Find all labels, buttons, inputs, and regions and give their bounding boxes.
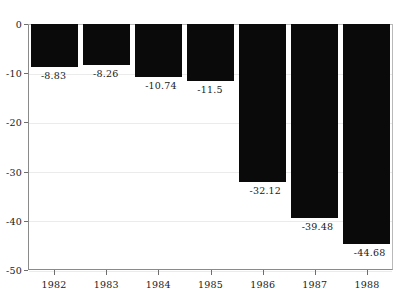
bar	[83, 24, 130, 65]
y-tick-label: -20	[0, 117, 22, 128]
x-tick-mark	[211, 270, 212, 275]
bar	[187, 24, 234, 81]
bar-value-label: -44.68	[354, 247, 386, 258]
y-tick-label: -40	[0, 215, 22, 226]
x-tick-mark	[263, 270, 264, 275]
x-tick-label: 1983	[94, 279, 119, 290]
y-tick-mark	[24, 24, 28, 25]
bar-value-label: -11.5	[197, 84, 222, 95]
x-tick-label: 1988	[354, 279, 379, 290]
bar	[343, 24, 390, 244]
bar-chart: 0-10-20-30-40-50 -8.83-8.26-10.74-11.5-3…	[0, 0, 419, 307]
x-tick-label: 1985	[198, 279, 223, 290]
bar-value-label: -8.26	[93, 68, 118, 79]
bar-value-label: -10.74	[145, 80, 177, 91]
bar	[31, 24, 78, 67]
bar-value-label: -8.83	[41, 70, 66, 81]
bar-value-label: -39.48	[302, 221, 334, 232]
x-tick-mark	[315, 270, 316, 275]
y-tick-mark	[24, 221, 28, 222]
x-tick-mark	[54, 270, 55, 275]
y-tick-mark	[24, 73, 28, 74]
x-tick-label: 1987	[302, 279, 327, 290]
bar-value-label: -32.12	[250, 185, 282, 196]
x-tick-mark	[106, 270, 107, 275]
gridline	[29, 221, 392, 222]
y-tick-label: -30	[0, 166, 22, 177]
x-tick-label: 1982	[42, 279, 67, 290]
y-tick-mark	[24, 270, 28, 271]
bar	[239, 24, 286, 182]
y-tick-label: 0	[0, 19, 22, 30]
x-tick-label: 1984	[146, 279, 171, 290]
y-tick-mark	[24, 122, 28, 123]
x-tick-label: 1986	[250, 279, 275, 290]
x-tick-mark	[367, 270, 368, 275]
x-tick-mark	[158, 270, 159, 275]
y-tick-mark	[24, 172, 28, 173]
bar	[291, 24, 338, 218]
y-tick-label: -50	[0, 265, 22, 276]
bar	[135, 24, 182, 77]
y-tick-label: -10	[0, 68, 22, 79]
